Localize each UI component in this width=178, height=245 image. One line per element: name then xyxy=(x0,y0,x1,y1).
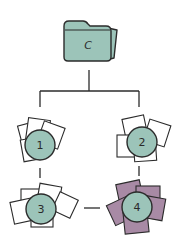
node-label: 3 xyxy=(38,203,45,216)
node-3[interactable]: 3 xyxy=(10,183,78,227)
node-2[interactable]: 2 xyxy=(117,115,171,162)
folder-label: C xyxy=(84,39,92,52)
node-label: 2 xyxy=(139,136,146,149)
node-4[interactable]: 4 xyxy=(106,180,165,234)
tree-diagram: C 1 2 3 xyxy=(0,0,178,245)
node-label: 1 xyxy=(37,139,44,152)
node-1[interactable]: 1 xyxy=(18,118,66,162)
node-label: 4 xyxy=(134,201,141,214)
folder-node-c[interactable]: C xyxy=(64,21,117,61)
